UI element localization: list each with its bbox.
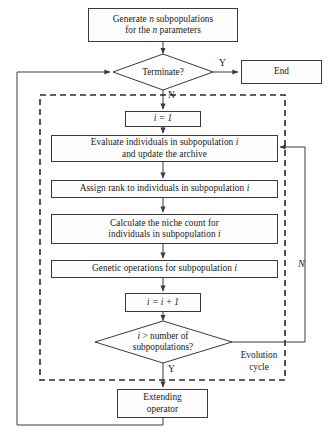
node-evaluate-individuals: Evaluate individuals in subpopulation i … (51, 135, 278, 162)
check-i-line2: subpopulations? (133, 342, 193, 353)
node-extending-operator: Extending operator (117, 389, 208, 418)
node-check-i-label: i > number of subpopulations? (100, 322, 226, 362)
check-i-line1: i > number of (133, 331, 193, 342)
generate-line2: for the n parameters (113, 25, 213, 37)
node-terminate-label: Terminate? (113, 54, 213, 90)
evaluate-line1: Evaluate individuals in subpopulation i (91, 137, 239, 149)
evolution-cycle-line2: cycle (228, 362, 290, 374)
extending-line2: operator (143, 404, 182, 416)
evolution-cycle-line1: Evolution (228, 350, 290, 362)
edge-label-terminate-no: N (168, 90, 175, 100)
node-increment-i: i = i + 1 (125, 293, 201, 312)
evaluate-line2: and update the archive (91, 149, 239, 161)
node-niche-count: Calculate the niche count for individual… (51, 214, 278, 244)
label-evolution-cycle: Evolution cycle (228, 350, 290, 373)
edge-check-no-loop-to-evaluate (232, 147, 305, 342)
edge-label-check-yes: Y (168, 364, 175, 374)
extending-line1: Extending (143, 392, 182, 404)
edge-label-terminate-yes: Y (219, 58, 226, 68)
node-init-i: i = 1 (125, 111, 201, 127)
node-end: End (241, 60, 322, 84)
generate-line1: Generate n subpopulations (113, 14, 213, 26)
niche-count-line1: Calculate the niche count for (108, 218, 220, 230)
flowchart-diagram: Generate n subpopulations for the n para… (0, 0, 332, 445)
niche-count-line2: individuals in subpopulation i (108, 229, 220, 241)
node-generate-subpopulations: Generate n subpopulations for the n para… (88, 8, 238, 42)
edge-label-check-no: N (298, 259, 305, 269)
node-genetic-operations: Genetic operations for subpopulation i (51, 260, 278, 278)
node-assign-rank: Assign rank to individuals in subpopulat… (51, 180, 278, 198)
